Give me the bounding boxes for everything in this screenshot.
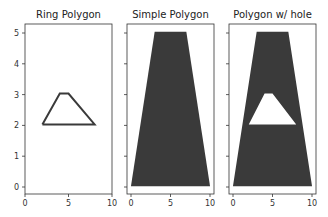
chart-title: Polygon w/ hole (233, 9, 312, 20)
y-axis: 0 1 2 3 4 5 (14, 29, 25, 192)
axes-ring-polygon: Ring Polygon 0 1 2 3 4 5 0 5 10 (14, 9, 117, 208)
y-tick-label: 2 (14, 121, 19, 130)
x-tick-label: 5 (270, 199, 275, 208)
x-tick-label: 5 (66, 199, 71, 208)
axes-polygon-with-hole: Polygon w/ hole 0 5 10 (226, 9, 317, 208)
y-tick-label: 4 (14, 60, 19, 69)
x-axis: 0 5 10 (128, 194, 215, 208)
chart-title: Simple Polygon (132, 9, 209, 20)
axes-simple-polygon: Simple Polygon 0 5 10 (124, 9, 215, 208)
x-axis: 0 5 10 (22, 194, 117, 208)
x-tick-label: 10 (107, 199, 117, 208)
x-axis: 0 5 10 (230, 194, 317, 208)
y-tick-label: 5 (14, 29, 19, 38)
polygon-with-hole-fill (233, 32, 312, 187)
x-tick-label: 0 (128, 199, 133, 208)
figure: Ring Polygon 0 1 2 3 4 5 0 5 10 Simple (0, 0, 328, 217)
chart-title: Ring Polygon (36, 9, 101, 20)
x-tick-label: 10 (307, 199, 317, 208)
x-tick-label: 0 (22, 199, 27, 208)
x-tick-label: 5 (168, 199, 173, 208)
y-tick-label: 0 (14, 183, 19, 192)
x-tick-label: 0 (230, 199, 235, 208)
y-tick-label: 3 (14, 91, 19, 100)
simple-polygon-fill (131, 32, 210, 187)
ring-polygon-line (42, 94, 94, 125)
y-axis (226, 33, 229, 187)
y-tick-label: 1 (14, 152, 19, 161)
axes-frame (25, 24, 112, 194)
y-axis (124, 33, 127, 187)
x-tick-label: 10 (205, 199, 215, 208)
